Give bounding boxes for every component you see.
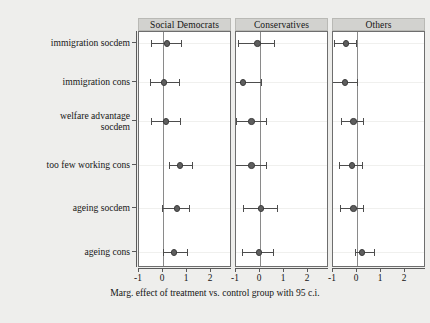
estimate-marker	[236, 248, 327, 257]
point-estimate-dot	[171, 249, 177, 255]
y-axis-tick-3	[132, 164, 136, 165]
ci-cap-low	[243, 205, 244, 212]
x-axis-ticklabel-0-2: 1	[176, 273, 196, 283]
point-estimate-dot	[342, 79, 348, 85]
ci-cap-low	[242, 249, 243, 256]
point-estimate-dot	[350, 118, 356, 124]
ci-cap-low	[332, 79, 333, 86]
estimate-marker	[236, 78, 327, 87]
x-axis-tick-2-2	[380, 269, 381, 272]
estimate-marker	[333, 117, 424, 126]
x-axis-tick-0-2	[186, 269, 187, 272]
x-axis-tick-0-0	[138, 269, 139, 272]
panel-0	[138, 31, 231, 267]
estimate-marker	[139, 161, 230, 170]
point-estimate-dot	[164, 40, 170, 46]
point-estimate-dot	[240, 79, 246, 85]
point-estimate-dot	[248, 118, 254, 124]
x-axis-tick-1-1	[259, 269, 260, 272]
ci-cap-high	[363, 118, 364, 125]
estimate-marker	[333, 161, 424, 170]
panel-strip-0: Social Democrats	[138, 18, 231, 31]
x-axis-tick-0-1	[162, 269, 163, 272]
ci-cap-low	[236, 118, 237, 125]
x-axis-ticklabel-0-1: 0	[152, 273, 172, 283]
ci-cap-high	[187, 249, 188, 256]
estimate-marker	[236, 161, 327, 170]
ci-cap-low	[340, 205, 341, 212]
ci-cap-low	[169, 162, 170, 169]
ci-cap-high	[274, 40, 275, 47]
ci-cap-high	[261, 79, 262, 86]
estimate-marker	[139, 39, 230, 48]
estimate-marker	[333, 248, 424, 257]
point-estimate-dot	[343, 40, 349, 46]
estimate-marker	[333, 204, 424, 213]
point-estimate-dot	[359, 249, 365, 255]
estimate-marker	[333, 39, 424, 48]
ci-cap-high	[273, 249, 274, 256]
x-axis-line-2	[332, 268, 425, 269]
x-axis-line-1	[235, 268, 328, 269]
estimate-marker	[139, 204, 230, 213]
ci-cap-high	[356, 40, 357, 47]
y-axis-label-4: ageing socdem	[6, 202, 130, 213]
ci-cap-low	[151, 40, 152, 47]
y-axis-tick-2	[132, 120, 136, 121]
ci-cap-high	[181, 40, 182, 47]
ci-cap-high	[179, 79, 180, 86]
ci-cap-low	[238, 40, 239, 47]
ci-cap-high	[180, 118, 181, 125]
ci-cap-low	[162, 205, 163, 212]
x-axis-ticklabel-1-2: 1	[273, 273, 293, 283]
forest-plot-figure: immigration socdemimmigration conswelfar…	[0, 0, 430, 323]
estimate-marker	[139, 78, 230, 87]
point-estimate-dot	[161, 79, 167, 85]
x-axis-ticklabel-2-2: 1	[370, 273, 390, 283]
x-axis-tick-1-3	[307, 269, 308, 272]
point-estimate-dot	[349, 162, 355, 168]
zero-reference-line	[163, 32, 164, 266]
point-estimate-dot	[254, 40, 260, 46]
estimate-marker	[236, 204, 327, 213]
y-axis-label-3: too few working cons	[6, 159, 130, 170]
point-estimate-dot	[248, 162, 254, 168]
point-estimate-dot	[163, 118, 169, 124]
y-axis-tick-1	[132, 81, 136, 82]
ci-cap-high	[266, 118, 267, 125]
estimate-marker	[236, 117, 327, 126]
y-axis-tick-5	[132, 251, 136, 252]
panel-strip-2: Others	[332, 18, 425, 31]
ci-cap-low	[150, 79, 151, 86]
estimate-marker	[139, 117, 230, 126]
x-axis-tick-2-3	[404, 269, 405, 272]
point-estimate-dot	[258, 205, 264, 211]
ci-cap-low	[163, 249, 164, 256]
confidence-interval-bar	[235, 82, 261, 83]
ci-cap-high	[374, 249, 375, 256]
y-axis-label-5: ageing cons	[6, 246, 130, 257]
y-axis-label-0: immigration socdem	[6, 37, 130, 48]
point-estimate-dot	[256, 249, 262, 255]
panel-strip-1: Conservatives	[235, 18, 328, 31]
x-axis-ticklabel-1-0: -1	[225, 273, 245, 283]
x-axis-tick-0-3	[210, 269, 211, 272]
ci-cap-high	[189, 205, 190, 212]
y-axis-tick-0	[132, 42, 136, 43]
y-axis-tick-4	[132, 207, 136, 208]
ci-cap-low	[235, 162, 236, 169]
x-axis-tick-1-2	[283, 269, 284, 272]
ci-cap-high	[266, 162, 267, 169]
x-axis-ticklabel-0-0: -1	[128, 273, 148, 283]
y-axis-line	[136, 31, 137, 267]
panel-2	[332, 31, 425, 267]
ci-cap-high	[363, 205, 364, 212]
panel-1	[235, 31, 328, 267]
zero-reference-line	[357, 32, 358, 266]
estimate-marker	[139, 248, 230, 257]
x-axis-line-0	[138, 268, 231, 269]
x-axis-ticklabel-1-1: 0	[249, 273, 269, 283]
x-axis-title: Marg. effect of treatment vs. control gr…	[0, 287, 430, 298]
estimate-marker	[236, 39, 327, 48]
point-estimate-dot	[350, 205, 356, 211]
